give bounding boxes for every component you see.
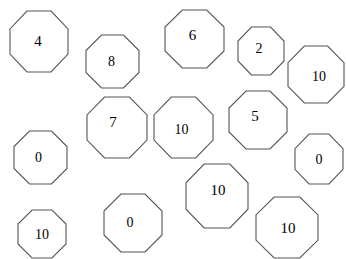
octagon-0-bottom: 0	[104, 194, 162, 252]
octagon-outline-icon	[10, 11, 68, 72]
octagon-outline-icon	[104, 194, 162, 252]
octagon-outline-icon	[238, 27, 284, 75]
octagon-10-middle: 10	[154, 97, 213, 158]
octagon-0-left: 0	[14, 131, 67, 184]
octagon-outline-icon	[14, 131, 67, 184]
octagon-0-right: 0	[295, 134, 343, 184]
octagon-10-botright: 10	[256, 197, 318, 258]
octagon-4: 4	[10, 11, 68, 72]
octagon-outline-icon	[87, 97, 147, 158]
octagon-outline-icon	[18, 210, 66, 258]
octagon-outline-icon	[86, 35, 139, 88]
octagon-7: 7	[87, 97, 147, 158]
octagon-outline-icon	[295, 134, 343, 184]
octagon-outline-icon	[165, 10, 224, 68]
octagon-outline-icon	[256, 197, 318, 258]
octagon-10-botleft: 10	[18, 210, 66, 258]
octagon-8: 8	[86, 35, 139, 88]
octagon-outline-icon	[154, 97, 213, 158]
octagon-outline-icon	[288, 46, 344, 103]
octagon-2: 2	[238, 27, 284, 75]
octagon-10-center: 10	[186, 164, 248, 228]
octagon-5: 5	[229, 91, 287, 149]
worksheet-canvas: 4862107105001001010	[0, 0, 346, 259]
octagon-10-topright: 10	[288, 46, 344, 103]
octagon-6: 6	[165, 10, 224, 68]
octagon-outline-icon	[186, 164, 248, 228]
octagon-outline-icon	[229, 91, 287, 149]
